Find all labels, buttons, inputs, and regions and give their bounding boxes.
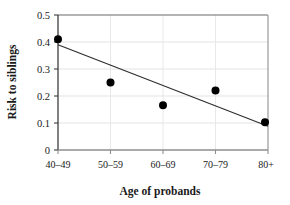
y-tick-label-0.1: 0.1: [37, 118, 50, 129]
data-point-50-59[interactable]: [107, 79, 115, 87]
x-axis-title: Age of probands: [120, 185, 201, 198]
y-tick-label-0.3: 0.3: [37, 64, 50, 75]
data-point-70-79[interactable]: [212, 87, 220, 95]
y-tick-label-0.4: 0.4: [37, 37, 51, 48]
x-tick-label-60-69: 60–69: [151, 159, 176, 170]
x-tick-label-70-79: 70–79: [203, 159, 228, 170]
y-tick-label-0: 0: [45, 145, 50, 156]
data-point-60-69[interactable]: [159, 101, 167, 109]
y-tick-labels: 0.5 0.4 0.3 0.2 0.1 0: [37, 10, 51, 156]
y-tick-label-0.2: 0.2: [37, 91, 50, 102]
x-tick-labels: 40–49 50–59 60–69 70–79 80+: [46, 159, 275, 170]
chart-figure: 0.5 0.4 0.3 0.2 0.1 0 40–49 50–59 60–69 …: [0, 0, 290, 205]
data-point-40-49[interactable]: [54, 35, 62, 43]
x-tick-label-80-plus: 80+: [258, 159, 274, 170]
data-point-80-plus[interactable]: [261, 118, 269, 126]
scatter-chart: 0.5 0.4 0.3 0.2 0.1 0 40–49 50–59 60–69 …: [0, 0, 290, 205]
x-tick-label-40-49: 40–49: [46, 159, 71, 170]
x-tick-label-50-59: 50–59: [98, 159, 123, 170]
y-axis-title: Risk to siblings: [6, 44, 19, 119]
y-tick-label-0.5: 0.5: [37, 10, 50, 21]
